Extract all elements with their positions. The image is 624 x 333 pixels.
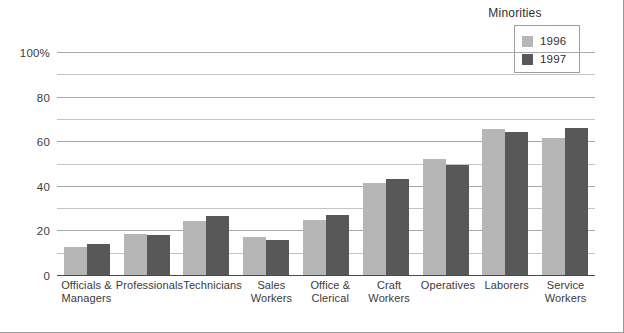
x-axis-label-line: Workers <box>360 292 419 305</box>
bar-1996 <box>64 247 87 276</box>
x-axis-label-line: Technicians <box>183 279 242 292</box>
y-tick-label: 20 <box>37 225 50 237</box>
bar-groups <box>57 53 595 276</box>
bar-1997 <box>326 215 349 276</box>
bar-group <box>416 53 476 276</box>
y-tick-label: 60 <box>37 136 50 148</box>
bar-1997 <box>206 216 229 276</box>
x-axis-label: Officials &Managers <box>57 279 116 305</box>
x-axis-category-labels: Officials &ManagersProfessionalsTechnici… <box>57 279 595 305</box>
x-axis-label-line: Sales <box>242 279 301 292</box>
bar-1996 <box>423 159 446 276</box>
y-tick-label: 40 <box>37 181 50 193</box>
bar-group <box>57 53 117 276</box>
legend-title: Minorities <box>488 6 541 20</box>
bar-group <box>296 53 356 276</box>
bar-1997 <box>147 235 170 276</box>
x-axis-label-line: Managers <box>57 292 116 305</box>
x-axis-label-line: Office & <box>301 279 360 292</box>
bar-1997 <box>386 179 409 276</box>
x-axis-label: Technicians <box>183 279 242 305</box>
bar-group <box>177 53 237 276</box>
x-axis-label-line: Workers <box>242 292 301 305</box>
x-axis-label-line: Operatives <box>418 279 477 292</box>
y-tick-label: 80 <box>37 92 50 104</box>
plot-area: 020406080100% <box>57 53 595 276</box>
y-tick-label: 100% <box>20 47 50 59</box>
bar-1996 <box>183 221 206 276</box>
bar-1997 <box>266 240 289 276</box>
x-axis-label: SalesWorkers <box>242 279 301 305</box>
x-axis-label: Office &Clerical <box>301 279 360 305</box>
x-axis-label-line: Craft <box>360 279 419 292</box>
x-axis-label: Operatives <box>418 279 477 305</box>
x-axis-line <box>57 275 595 276</box>
bar-1996 <box>363 183 386 276</box>
bar-1997 <box>446 165 469 277</box>
bar-1996 <box>542 138 565 276</box>
chart-figure: Minorities 1996 1997 020406080100% Offic… <box>0 0 624 333</box>
bar-group <box>475 53 535 276</box>
y-tick-label: 0 <box>43 270 50 282</box>
bar-group <box>117 53 177 276</box>
legend-label-1996: 1996 <box>540 35 566 47</box>
bar-1997 <box>505 132 528 276</box>
x-axis-label: Laborers <box>477 279 536 305</box>
bar-1996 <box>303 220 326 276</box>
bar-1997 <box>87 244 110 276</box>
x-axis-label: CraftWorkers <box>360 279 419 305</box>
bar-group <box>356 53 416 276</box>
x-axis-label-line: Laborers <box>477 279 536 292</box>
x-axis-label-line: Clerical <box>301 292 360 305</box>
bar-1997 <box>565 128 588 276</box>
legend-item-1996: 1996 <box>522 32 579 50</box>
x-axis-label-line: Professionals <box>116 279 183 292</box>
x-axis-label: Professionals <box>116 279 183 305</box>
bar-1996 <box>124 234 147 276</box>
x-axis-label: ServiceWorkers <box>536 279 595 305</box>
x-axis-label-line: Officials & <box>57 279 116 292</box>
x-axis-label-line: Workers <box>536 292 595 305</box>
x-axis-label-line: Service <box>536 279 595 292</box>
bar-group <box>535 53 595 276</box>
bar-group <box>236 53 296 276</box>
bar-1996 <box>482 129 505 276</box>
legend-swatch-1996-icon <box>522 36 533 47</box>
bar-1996 <box>243 237 266 276</box>
